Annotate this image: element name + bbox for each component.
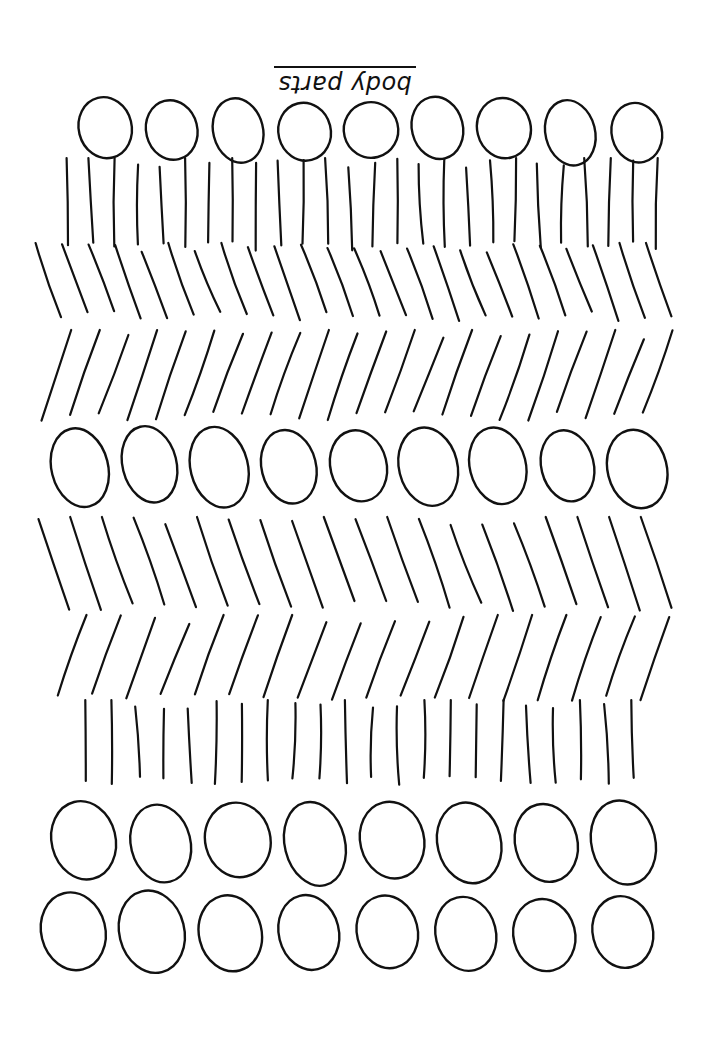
traced-line <box>501 700 504 781</box>
traced-line <box>102 517 133 603</box>
traced-line <box>538 615 567 700</box>
traced-line <box>434 246 459 321</box>
traced-line <box>643 330 673 412</box>
traced-line <box>526 706 531 783</box>
traced-line <box>356 519 387 601</box>
traced-line <box>188 709 192 783</box>
traced-oval <box>206 93 270 168</box>
traced-line <box>372 163 375 247</box>
traced-line <box>385 330 415 412</box>
row-5-ovals <box>43 420 676 514</box>
traced-line <box>232 158 233 242</box>
traced-line <box>324 517 355 601</box>
traced-line <box>586 330 616 418</box>
traced-line <box>500 335 530 420</box>
row-4-slash-lines <box>42 330 673 421</box>
traced-oval <box>33 885 114 977</box>
traced-line <box>514 158 516 241</box>
traced-line <box>424 700 426 778</box>
traced-line <box>213 334 243 412</box>
traced-line <box>160 167 164 244</box>
traced-line <box>646 243 671 316</box>
traced-line <box>85 700 86 781</box>
row-7-slash-lines <box>58 615 669 701</box>
row-6-backslash-lines <box>39 517 672 611</box>
traced-line <box>608 158 611 246</box>
traced-line <box>42 330 72 421</box>
traced-line <box>92 615 121 693</box>
traced-line <box>195 615 224 694</box>
traced-line <box>577 517 608 607</box>
traced-line <box>142 252 167 318</box>
traced-line <box>503 615 532 701</box>
traced-oval <box>275 795 354 892</box>
traced-line <box>161 624 190 694</box>
traced-line <box>614 339 644 414</box>
traced-line <box>487 252 512 316</box>
traced-oval <box>533 425 601 508</box>
traced-oval <box>352 795 433 886</box>
traced-oval <box>405 91 470 164</box>
row-1-ovals <box>72 91 668 171</box>
traced-oval <box>585 890 661 975</box>
traced-line <box>354 248 379 315</box>
traced-line <box>407 249 433 319</box>
traced-oval <box>181 421 256 514</box>
traced-oval <box>471 92 538 164</box>
traced-line <box>328 248 353 316</box>
traced-line <box>537 164 541 248</box>
traced-line <box>271 333 301 414</box>
traced-line <box>357 332 387 414</box>
traced-line <box>274 246 300 320</box>
traced-oval <box>506 892 583 977</box>
traced-line <box>221 243 246 314</box>
traced-line <box>185 331 215 416</box>
traced-line <box>348 167 352 250</box>
traced-line <box>156 331 186 419</box>
traced-line <box>264 615 293 697</box>
traced-oval <box>72 92 138 164</box>
traced-line <box>546 517 577 604</box>
traced-line <box>39 519 70 610</box>
traced-line <box>111 700 112 784</box>
traced-line <box>260 520 291 607</box>
traced-line <box>301 245 326 313</box>
traced-line <box>197 517 228 606</box>
traced-line <box>298 622 327 697</box>
traced-line <box>514 523 545 606</box>
traced-line <box>36 243 61 317</box>
traced-line <box>127 330 157 420</box>
traced-line <box>195 251 220 312</box>
row-10-ovals <box>33 883 661 979</box>
traced-oval <box>140 95 204 166</box>
traced-line <box>419 519 450 608</box>
traced-line <box>620 243 645 318</box>
traced-line <box>471 336 501 416</box>
traced-oval <box>429 796 510 891</box>
traced-line <box>419 164 424 244</box>
row-3-backslash-lines <box>36 243 672 321</box>
traced-line <box>328 334 358 421</box>
traced-oval <box>253 424 324 509</box>
traced-oval <box>349 889 426 975</box>
traced-line <box>242 333 272 414</box>
traced-line <box>561 165 564 242</box>
traced-line <box>656 158 658 249</box>
traced-line <box>126 618 155 699</box>
traced-line <box>632 161 633 242</box>
traced-line <box>58 615 87 696</box>
traced-line <box>292 521 323 608</box>
traced-line <box>88 158 93 243</box>
traced-oval <box>338 96 404 163</box>
traced-oval <box>110 883 193 979</box>
row-9-ovals <box>43 794 665 893</box>
traced-line <box>292 703 295 778</box>
traced-oval <box>122 798 199 889</box>
traced-line <box>397 159 398 243</box>
traced-line <box>609 517 640 611</box>
traced-line <box>469 615 498 698</box>
traced-oval <box>43 422 117 513</box>
traced-line <box>134 518 165 605</box>
traced-line <box>135 707 140 777</box>
traced-line <box>168 243 193 315</box>
